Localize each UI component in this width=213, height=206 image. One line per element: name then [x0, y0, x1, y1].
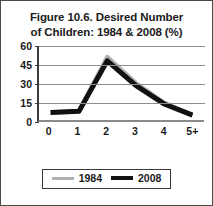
- x-axis-tick-labels: 012345+: [37, 126, 204, 140]
- y-axis-tick-mark: [35, 46, 39, 47]
- plot-frame: [37, 46, 204, 122]
- y-axis-tick-mark: [35, 122, 39, 123]
- gridline: [39, 46, 205, 47]
- y-axis-tick-label: 45: [20, 60, 32, 71]
- legend-box: 19842008: [42, 169, 172, 189]
- gridline: [39, 103, 205, 104]
- legend-entry-1984: 1984: [52, 173, 102, 184]
- figure-title: Figure 10.6. Desired Number of Children:…: [1, 1, 212, 40]
- figure-title-line-1: Figure 10.6. Desired Number: [7, 10, 206, 25]
- figure-container: Figure 10.6. Desired Number of Children:…: [0, 0, 213, 206]
- x-axis-tick-label: 0: [46, 126, 52, 137]
- legend-label: 1984: [79, 173, 102, 184]
- figure-title-line-2: of Children: 1984 & 2008 (%): [7, 25, 206, 40]
- y-axis-tick-label: 0: [26, 117, 32, 128]
- legend-entry-2008: 2008: [111, 173, 161, 184]
- x-axis-tick-label: 1: [74, 126, 80, 137]
- gridline: [39, 65, 205, 66]
- x-axis-tick-label: 4: [161, 126, 167, 137]
- y-axis-tick-mark: [35, 84, 39, 85]
- y-axis-tick-label: 30: [20, 79, 32, 90]
- legend-label: 2008: [138, 173, 161, 184]
- black-line-swatch: [111, 176, 133, 180]
- x-axis-tick-label: 5+: [186, 126, 198, 137]
- gridline: [39, 84, 205, 85]
- line-series-svg: [39, 46, 204, 120]
- y-axis-tick-mark: [35, 103, 39, 104]
- y-axis-tick-label: 60: [20, 41, 32, 52]
- x-axis-tick-label: 3: [132, 126, 138, 137]
- chart-plot-area: 015304560 012345+: [1, 46, 212, 138]
- chart-legend: 19842008: [1, 169, 212, 189]
- x-axis-tick-label: 2: [103, 126, 109, 137]
- y-axis-tick-mark: [35, 65, 39, 66]
- y-axis-tick-labels: 015304560: [1, 46, 37, 122]
- gray-line-swatch: [52, 177, 74, 180]
- y-axis-tick-label: 15: [20, 98, 32, 109]
